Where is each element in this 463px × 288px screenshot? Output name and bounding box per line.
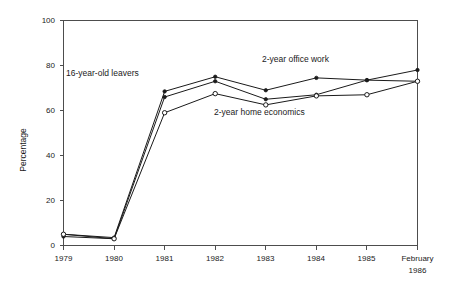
data-point (415, 79, 419, 83)
series-path (64, 81, 418, 239)
x-tick-label-1980: 1980 (105, 254, 123, 263)
y-tick-label-80: 80 (46, 61, 55, 70)
data-point (365, 93, 369, 97)
x-tick-label-1986: 1986 (409, 266, 427, 275)
series-path (64, 80, 418, 239)
x-tick-label-february: February (401, 254, 433, 263)
data-point (163, 90, 166, 93)
y-tick-label-20: 20 (46, 196, 55, 205)
series-annotation-office-work: 2-year office work (262, 54, 330, 64)
x-tick-label-1983: 1983 (257, 254, 275, 263)
x-tick-label-1979: 1979 (55, 254, 73, 263)
data-point (214, 75, 217, 78)
chart-page: 0 20 40 60 80 100 Percentage 1979 1980 1… (0, 0, 463, 288)
data-point (365, 78, 368, 81)
data-point (214, 80, 217, 83)
y-tick-label-0: 0 (51, 241, 56, 250)
series-2-year-home-economics (61, 79, 419, 241)
data-point (314, 94, 318, 98)
x-tick-label-1982: 1982 (206, 254, 224, 263)
line-chart: 0 20 40 60 80 100 Percentage 1979 1980 1… (0, 0, 463, 288)
x-tick-label-1985: 1985 (358, 254, 376, 263)
series-annotation-home-economics: 2-year home economics (214, 107, 305, 117)
data-point (264, 89, 267, 92)
data-point (416, 68, 419, 71)
y-tick-label-60: 60 (46, 106, 55, 115)
data-point (315, 76, 318, 79)
series-annotation-leavers: 16-year-old leavers (66, 68, 139, 78)
y-axis-ticks (60, 21, 64, 246)
y-tick-label-40: 40 (46, 151, 55, 160)
series-16-year-old-leavers (62, 78, 419, 240)
data-point (213, 91, 217, 95)
y-axis-title: Percentage (18, 128, 28, 172)
data-point (264, 98, 267, 101)
data-point (61, 232, 65, 236)
data-point (162, 111, 166, 115)
series-layer (61, 68, 419, 241)
y-tick-label-100: 100 (42, 16, 56, 25)
x-tick-label-1981: 1981 (156, 254, 174, 263)
data-point (112, 237, 116, 241)
x-axis-ticks (64, 246, 418, 250)
x-tick-label-1984: 1984 (307, 254, 325, 263)
